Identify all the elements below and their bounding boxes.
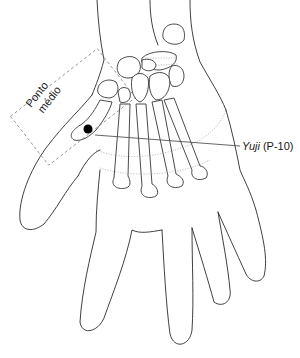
middle-finger-outline xyxy=(162,228,193,344)
lunate xyxy=(142,59,156,71)
hamate xyxy=(149,73,170,100)
hand-illustration: Ponto médio Yuji(P-10) xyxy=(0,0,300,358)
trapezium xyxy=(98,80,118,98)
forearm-radial-edge xyxy=(92,0,104,95)
metacarpal-2 xyxy=(113,104,130,189)
point-label: Yuji(P-10) xyxy=(242,140,294,152)
radius-line xyxy=(150,0,158,45)
pisiform xyxy=(169,65,184,86)
thumb-outline xyxy=(20,95,92,230)
point-name: Yuji xyxy=(242,140,260,152)
forearm-ulnar-edge xyxy=(190,0,226,110)
metacarpal-3 xyxy=(136,104,158,198)
trapezoid xyxy=(118,88,130,103)
acupoint-marker xyxy=(84,125,93,134)
point-code: (P-10) xyxy=(263,140,294,152)
capitate xyxy=(131,74,148,103)
ulna-head xyxy=(163,24,185,44)
hand-acupoint-diagram: Ponto médio Yuji(P-10) xyxy=(0,0,300,358)
